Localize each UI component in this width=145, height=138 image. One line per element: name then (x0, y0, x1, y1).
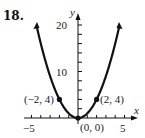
data-point (75, 115, 80, 120)
parabola-chart: y x 20 10 −5 5 (−2, 4) (0, 0) (2, 4) (0, 0, 145, 138)
x-axis-label: x (133, 104, 139, 116)
y-tick-label-20: 20 (56, 19, 68, 31)
curve-arrow-right-icon (117, 22, 123, 29)
x-tick-label-5: 5 (120, 122, 126, 134)
data-point (57, 97, 62, 102)
x-axis-arrow-icon (131, 116, 138, 121)
point-label-2-4: (2, 4) (100, 93, 124, 106)
axes (24, 13, 138, 124)
y-axis-label: y (69, 6, 75, 18)
y-ticks (78, 25, 82, 109)
x-tick-label-neg5: −5 (23, 122, 35, 134)
point-label-origin: (0, 0) (80, 121, 104, 134)
y-axis-arrow-icon (76, 13, 81, 20)
y-tick-label-10: 10 (56, 66, 68, 78)
point-label-neg2-4: (−2, 4) (24, 93, 54, 106)
data-point (94, 97, 99, 102)
curve-arrow-left-icon (34, 22, 40, 29)
